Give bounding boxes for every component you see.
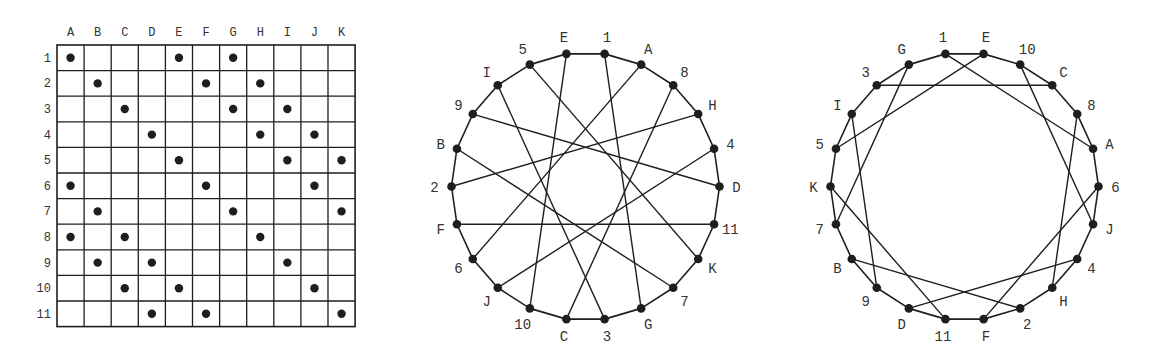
- incidence-dot: [93, 207, 101, 215]
- vertex: [872, 283, 881, 292]
- cycle-edge: [641, 65, 673, 86]
- vertex-label: A: [644, 42, 653, 58]
- chord-edge: [1020, 65, 1093, 225]
- vertex-label: 2: [430, 180, 438, 196]
- cycle-edge: [452, 187, 457, 225]
- incidence-dot: [310, 182, 318, 190]
- incidence-dot: [175, 54, 183, 62]
- vertex-label: 5: [815, 137, 823, 153]
- vertex-label: 11: [722, 222, 739, 238]
- incidence-dot: [229, 105, 237, 113]
- incidence-dot: [93, 258, 101, 266]
- cycle-edge: [714, 149, 719, 187]
- vertex-label: 4: [726, 137, 734, 153]
- incidence-dot: [229, 54, 237, 62]
- column-label: A: [67, 26, 75, 40]
- incidence-dot: [148, 310, 156, 318]
- vertex-label: K: [708, 261, 717, 277]
- incidence-dot: [202, 79, 210, 87]
- vertex: [1048, 283, 1057, 292]
- vertex: [562, 50, 571, 59]
- vertex: [637, 60, 646, 69]
- vertex: [600, 315, 609, 324]
- cycle-edge: [984, 54, 1021, 65]
- vertex-label: 4: [1087, 261, 1095, 277]
- incidence-dot: [66, 233, 74, 241]
- column-label: E: [175, 26, 182, 40]
- incidence-dot: [202, 310, 210, 318]
- cycle-edge: [714, 187, 719, 225]
- vertex: [1016, 304, 1025, 313]
- vertex: [453, 220, 462, 229]
- row-label: 8: [44, 231, 51, 245]
- incidence-dot: [121, 105, 129, 113]
- vertex-label: H: [708, 98, 716, 114]
- incidence-dot: [121, 284, 129, 292]
- chord-edge: [530, 65, 698, 259]
- vertex-label: 7: [680, 294, 688, 310]
- chord-edge: [836, 65, 909, 225]
- chord-edge: [1052, 114, 1077, 288]
- cycle-edge: [498, 65, 530, 86]
- vertex: [826, 182, 835, 191]
- vertex: [447, 182, 456, 191]
- vertex-label: I: [833, 98, 841, 114]
- incidence-dot: [256, 79, 264, 87]
- vertex: [468, 110, 477, 119]
- vertex-label: K: [809, 180, 818, 196]
- vertex-label: C: [560, 329, 568, 345]
- column-label: G: [230, 26, 237, 40]
- incidence-dot: [283, 105, 291, 113]
- row-label: 4: [44, 129, 51, 143]
- incidence-dot: [202, 182, 210, 190]
- vertex-label: F: [982, 329, 990, 345]
- incidence-dot: [229, 207, 237, 215]
- vertex: [468, 255, 477, 264]
- chord-edge: [498, 149, 714, 288]
- vertex: [1073, 110, 1082, 119]
- cycle-edge: [1093, 149, 1098, 187]
- row-label: 11: [37, 308, 51, 322]
- vertex: [669, 81, 678, 90]
- incidence-dot: [175, 156, 183, 164]
- row-label: 3: [44, 103, 51, 117]
- cycle-edge: [473, 259, 498, 288]
- incidence-dot: [66, 182, 74, 190]
- cycle-edge: [673, 259, 698, 288]
- vertex-label: 8: [680, 65, 688, 81]
- cycle-edge: [530, 54, 567, 65]
- vertex-label: I: [482, 65, 490, 81]
- vertex: [979, 50, 988, 59]
- incidence-dot: [256, 233, 264, 241]
- chord-edge: [473, 65, 641, 259]
- vertex: [1048, 81, 1057, 90]
- vertex: [694, 255, 703, 264]
- incidence-dot: [256, 130, 264, 138]
- vertex-label: J: [482, 294, 490, 310]
- vertex-label: 6: [1111, 180, 1119, 196]
- chord-edge: [498, 85, 605, 319]
- chord-edge: [852, 114, 877, 288]
- incidence-dot: [337, 156, 345, 164]
- vertex: [847, 110, 856, 119]
- chord-edge: [457, 149, 673, 288]
- vertex-label: 5: [519, 42, 527, 58]
- cycle-edge: [831, 149, 836, 187]
- vertex-label: 3: [861, 65, 869, 81]
- vertex: [905, 304, 914, 313]
- vertex-label: A: [1105, 137, 1114, 153]
- vertex-label: E: [982, 30, 990, 46]
- cycle-edge: [1052, 85, 1077, 114]
- column-label: I: [284, 26, 291, 40]
- vertex-label: 2: [1023, 317, 1031, 333]
- vertex-label: B: [436, 137, 444, 153]
- vertex-label: F: [436, 222, 444, 238]
- column-label: F: [202, 26, 209, 40]
- incidence-dot: [310, 130, 318, 138]
- vertex: [1073, 255, 1082, 264]
- vertex: [526, 304, 535, 313]
- chord-edge: [984, 187, 1099, 320]
- chord-edge: [831, 187, 946, 320]
- cycle-edge: [530, 308, 567, 319]
- row-label: 9: [44, 257, 51, 271]
